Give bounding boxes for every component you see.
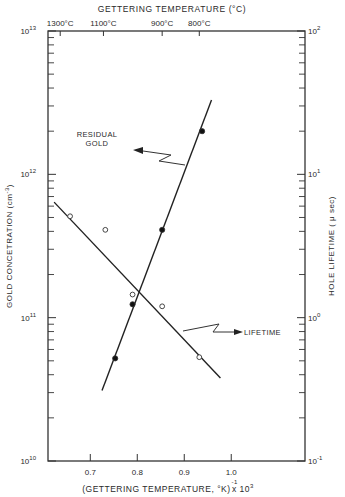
right-tick-label: 10-1 bbox=[308, 455, 323, 466]
lifetime-label: LIFETIME bbox=[244, 328, 281, 337]
data-point bbox=[103, 227, 108, 232]
data-point bbox=[200, 129, 205, 134]
top-tick-label: 900°C bbox=[151, 19, 174, 28]
residual-gold-series bbox=[102, 100, 211, 391]
plot-frame bbox=[48, 31, 305, 461]
residual-gold-leader-line bbox=[143, 151, 185, 165]
left-tick-label: 1010 bbox=[20, 455, 36, 466]
left-tick-label: 1011 bbox=[21, 312, 37, 323]
right-tick-label: 102 bbox=[308, 25, 321, 36]
x-tick-label: 1.0 bbox=[226, 468, 238, 477]
x-tick-label: 0.8 bbox=[132, 468, 144, 477]
data-point bbox=[130, 292, 135, 297]
left-tick-label: 1013 bbox=[20, 25, 36, 36]
top-tick-label: 1300°C bbox=[47, 19, 74, 28]
data-point bbox=[68, 214, 73, 219]
lifetime-annotation: LIFETIME bbox=[183, 324, 281, 337]
lifetime-series bbox=[54, 202, 220, 378]
series-layer bbox=[54, 100, 220, 391]
left-axis-ticks: 1013101210111010 bbox=[20, 25, 56, 466]
data-point bbox=[160, 227, 165, 232]
data-point bbox=[113, 356, 118, 361]
bottom-axis-ticks: 0.70.80.91.0 bbox=[85, 454, 238, 477]
top-axis-ticks: 1300°C1100°C900°C800°C bbox=[47, 19, 211, 36]
top-axis-title: GETTERING TEMPERATURE (°C) bbox=[98, 4, 247, 14]
arrowhead-icon bbox=[234, 329, 243, 335]
left-axis-title: GOLD CONCETRATION (cm-3) bbox=[4, 184, 14, 308]
gold-lifetime-chart: GETTERING TEMPERATURE (°C) 1300°C1100°C9… bbox=[0, 0, 345, 497]
residual-gold-label-line1: RESIDUAL bbox=[77, 130, 118, 139]
lifetime-leader-line bbox=[183, 324, 235, 332]
bottom-axis-title: (GETTERING TEMPERATURE, °K)-1x 103 bbox=[82, 479, 254, 494]
right-axis-title: HOLE LIFETIME ( μ sec) bbox=[327, 196, 336, 296]
arrowhead-icon bbox=[133, 147, 143, 154]
top-tick-label: 1100°C bbox=[90, 19, 116, 28]
data-point bbox=[197, 355, 202, 360]
fit-line bbox=[102, 100, 211, 391]
right-tick-label: 100 bbox=[308, 312, 321, 323]
right-tick-label: 101 bbox=[308, 168, 321, 179]
x-tick-label: 0.7 bbox=[85, 468, 97, 477]
top-tick-label: 800°C bbox=[188, 19, 211, 28]
x-tick-label: 0.9 bbox=[179, 468, 191, 477]
residual-gold-label-line2: GOLD bbox=[86, 139, 109, 148]
right-axis-ticks: 10210110010-1 bbox=[297, 25, 323, 466]
left-tick-label: 1012 bbox=[20, 168, 36, 179]
data-point bbox=[130, 302, 135, 307]
data-point bbox=[160, 304, 165, 309]
residual-gold-annotation: RESIDUAL GOLD bbox=[77, 130, 185, 165]
fit-line bbox=[54, 202, 220, 378]
